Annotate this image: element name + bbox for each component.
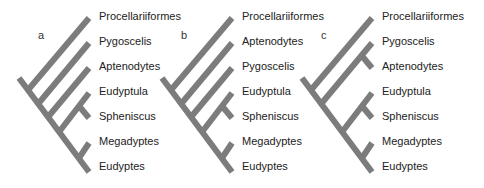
- taxon-label: Eudyptes: [242, 160, 288, 173]
- taxon-label: Megadyptes: [382, 135, 442, 148]
- panel-label-c: c: [321, 29, 327, 41]
- panel-c: c Procellariiformes Pygoscelis Aptenodyt…: [283, 0, 483, 188]
- taxon-label: Eudyptula: [99, 85, 148, 98]
- taxon-label: Spheniscus: [382, 110, 439, 123]
- taxon-label: Eudyptula: [382, 85, 431, 98]
- taxon-label: Aptenodytes: [382, 60, 443, 73]
- panel-b: b Procellariiformes Aptenodytes Pygoscel…: [143, 0, 303, 188]
- taxon-label: Eudyptes: [382, 160, 428, 173]
- panel-label-b: b: [181, 29, 187, 41]
- panel-label-a: a: [38, 29, 44, 41]
- taxon-label: Pygoscelis: [382, 35, 435, 48]
- panel-a: a Procellariiformes Pygoscelis Aptenodyt…: [0, 0, 160, 188]
- taxon-label: Procellariiformes: [382, 10, 464, 23]
- taxon-label: Eudyptes: [99, 160, 145, 173]
